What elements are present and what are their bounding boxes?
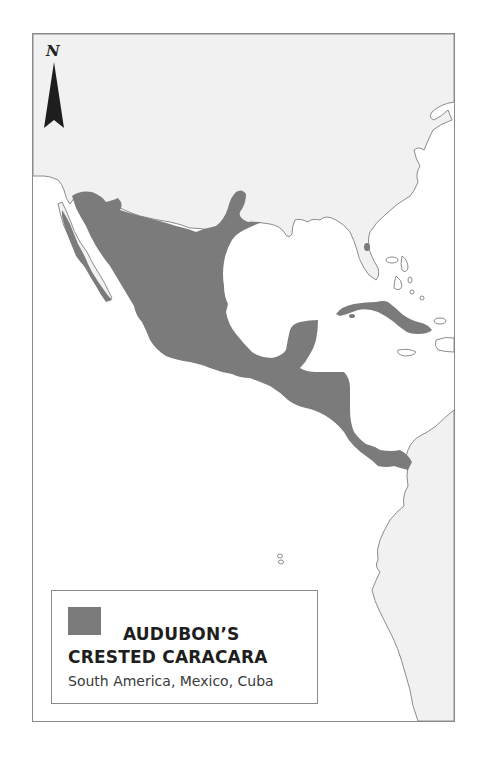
legend-swatch-range — [68, 607, 101, 635]
range-florida-spot — [364, 243, 370, 251]
caribbean-islands — [386, 256, 454, 356]
legend-title-line2: CRESTED CARACARA — [68, 647, 268, 667]
legend-title-line1: AUDUBON’S — [123, 624, 240, 644]
north-label: N — [46, 42, 60, 60]
range-isle-of-youth — [349, 314, 355, 318]
legend: AUDUBON’S CRESTED CARACARA South America… — [51, 590, 318, 704]
legend-subtitle: South America, Mexico, Cuba — [68, 673, 274, 689]
pacific-islets — [278, 554, 284, 564]
